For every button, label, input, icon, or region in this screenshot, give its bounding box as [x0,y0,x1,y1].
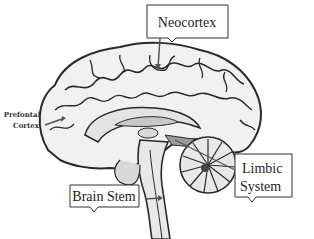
prefrontal-label-line2: Cortex [13,121,40,130]
neocortex-label: Neocortex [158,15,216,30]
limbic-label-line2: System [240,179,281,194]
cerebellum [180,137,236,193]
brain-diagram: Neocortex Prefontal Cortex Limbic System… [0,0,314,239]
prefrontal-label-line1: Prefontal [4,110,41,119]
brain-stem-label: Brain Stem [72,189,135,204]
limbic-label-line1: Limbic [242,161,282,176]
